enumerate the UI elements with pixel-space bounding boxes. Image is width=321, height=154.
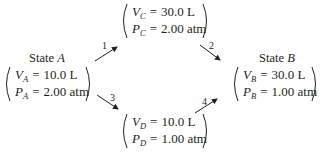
left-paren: [231, 66, 239, 102]
state-a-title-prefix: State: [29, 51, 54, 65]
state-b-title: State B: [259, 51, 295, 66]
state-a-box: VA=10.0 L PA=2.00 atm: [3, 66, 93, 102]
left-paren: [120, 113, 128, 149]
arrow-1-label: 1: [102, 40, 107, 51]
state-b-title-prefix: State: [259, 51, 284, 65]
state-c-box: VC=30.0 L PC=2.00 atm: [120, 3, 210, 39]
right-paren: [202, 113, 210, 149]
state-b-box: VB=30.0 L PB=1.00 atm: [231, 66, 319, 102]
state-b-volume: VB=30.0 L: [243, 67, 305, 83]
right-paren: [202, 3, 210, 39]
state-b-title-letter: B: [287, 51, 295, 65]
state-a-volume: VA=10.0 L: [15, 67, 77, 83]
state-c-pressure: PC=2.00 atm: [132, 21, 206, 37]
state-d-box: VD=10.0 L PD=1.00 atm: [120, 113, 210, 149]
state-a-title: State A: [29, 51, 65, 66]
right-paren: [311, 66, 319, 102]
arrow-2-label: 2: [209, 40, 214, 51]
left-paren: [3, 66, 11, 102]
left-paren: [120, 3, 128, 39]
state-a-title-letter: A: [57, 51, 65, 65]
arrow-3-label: 3: [110, 92, 115, 103]
state-c-volume: VC=30.0 L: [132, 4, 195, 20]
right-paren: [85, 66, 93, 102]
state-a-pressure: PA=2.00 atm: [15, 84, 89, 100]
state-d-pressure: PD=1.00 atm: [132, 131, 207, 147]
state-d-volume: VD=10.0 L: [132, 114, 195, 130]
arrow-4-label: 4: [202, 96, 207, 107]
state-b-pressure: PB=1.00 atm: [243, 84, 317, 100]
